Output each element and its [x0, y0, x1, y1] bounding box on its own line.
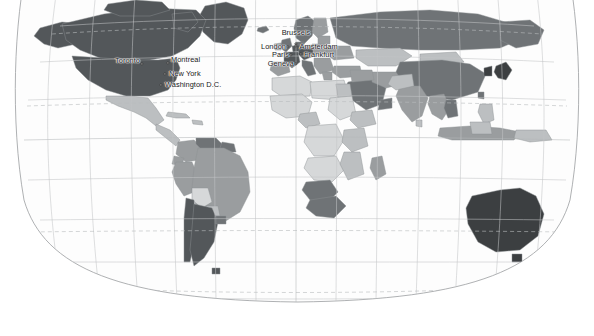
- city-label-geneva: Geneva: [268, 60, 294, 68]
- city-label-frankfurt: Frankfurt: [304, 51, 334, 59]
- country-taiwan: [478, 92, 484, 99]
- country-new-zealand: [550, 232, 570, 262]
- country-egypt: [336, 84, 352, 98]
- country-yemen-oman: [378, 98, 392, 110]
- island-sri-lanka: [416, 120, 422, 127]
- city-label-toronto: Toronto: [115, 57, 140, 65]
- city-label-washington-d-c: Washington D.C.: [165, 81, 221, 89]
- island-borneo: [470, 122, 492, 134]
- country-uruguay: [216, 216, 226, 224]
- world-map: TorontoMontrealNew YorkWashington D.C.Br…: [0, 0, 594, 336]
- country-greece: [322, 72, 332, 80]
- city-label-brussels: Brussels: [282, 29, 311, 37]
- country-korea: [484, 66, 492, 76]
- city-label-montreal: Montreal: [171, 56, 200, 64]
- island-hispaniola: [192, 120, 203, 125]
- world-map-canvas: [0, 0, 594, 336]
- city-label-new-york: New York: [169, 70, 201, 78]
- island-tasmania: [512, 254, 522, 262]
- country-iraq-syria: [350, 70, 374, 82]
- island-falklands: [212, 268, 220, 274]
